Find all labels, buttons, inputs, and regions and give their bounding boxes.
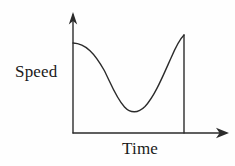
speed-curve-path (73, 35, 184, 112)
plot-canvas (0, 0, 235, 166)
y-axis-label: Speed (15, 63, 58, 80)
x-axis-label: Time (122, 140, 158, 157)
speed-time-graph-figure: Speed Time (0, 0, 235, 166)
